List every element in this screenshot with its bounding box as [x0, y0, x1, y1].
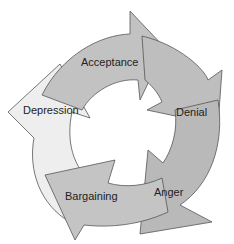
stage-label-acceptance: Acceptance [81, 56, 138, 68]
stage-label-depression: Depression [23, 104, 79, 116]
stage-label-bargaining: Bargaining [65, 190, 118, 202]
stage-label-anger: Anger [154, 186, 184, 198]
cycle-diagram: Acceptance Denial Anger Bargaining Depre… [0, 0, 234, 244]
stage-label-denial: Denial [176, 106, 207, 118]
